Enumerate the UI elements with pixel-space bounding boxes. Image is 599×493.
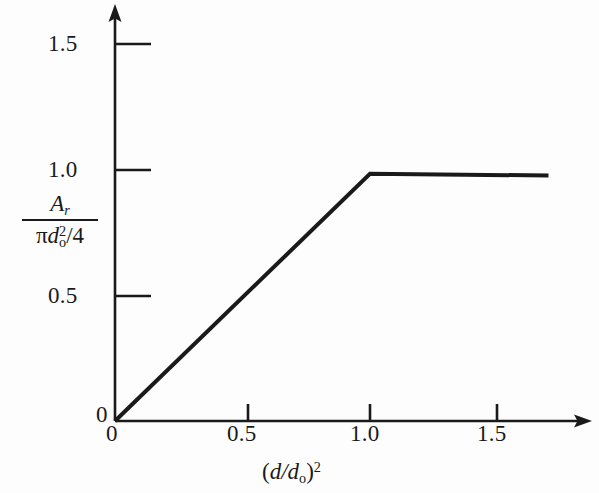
y-axis-label-numerator: Ar bbox=[8, 192, 112, 217]
y-axis-label-denominator: πd2o/4 bbox=[8, 223, 112, 248]
x-axis-ticks bbox=[248, 404, 497, 421]
x-label-d2: d bbox=[288, 459, 300, 484]
y-axis-ticks bbox=[115, 44, 151, 296]
x-tick-label-1.0: 1.0 bbox=[350, 421, 379, 447]
fraction-bar bbox=[22, 219, 98, 221]
x-axis-label: (d/do)2 bbox=[262, 459, 321, 485]
y-axis-label: Ar πd2o/4 bbox=[8, 192, 112, 248]
pi-symbol: π bbox=[36, 223, 48, 248]
x-label-d1: d bbox=[270, 459, 282, 484]
y-tick-label-0.5: 0.5 bbox=[48, 283, 77, 309]
x-label-exponent: 2 bbox=[314, 459, 321, 475]
y-tick-label-1.0: 1.0 bbox=[48, 157, 77, 183]
x-tick-label-0: 0 bbox=[106, 421, 118, 447]
x-tick-label-1.5: 1.5 bbox=[477, 421, 506, 447]
y-tick-label-1.5: 1.5 bbox=[48, 31, 77, 57]
data-curve bbox=[115, 174, 549, 421]
y-axis-label-A: A bbox=[50, 191, 64, 216]
x-tick-label-0.5: 0.5 bbox=[227, 421, 256, 447]
y-axis-label-d: d bbox=[48, 223, 60, 248]
y-axis-label-divide-four: /4 bbox=[66, 223, 84, 248]
x-label-close-paren: ) bbox=[306, 459, 314, 484]
chart-figure: 1.5 1.0 0.5 0 0 0.5 1.0 1.5 Ar πd2o/4 (d… bbox=[0, 0, 599, 493]
y-axis-label-A-subscript: r bbox=[64, 202, 70, 218]
x-label-open-paren: ( bbox=[262, 459, 270, 484]
